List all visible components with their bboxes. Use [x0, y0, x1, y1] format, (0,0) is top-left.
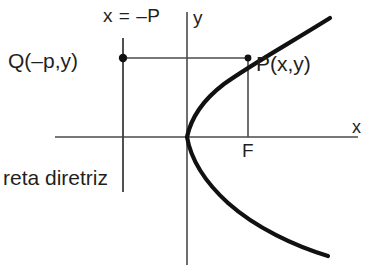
point-q-marker [119, 54, 127, 62]
directrix-equation-label: x = –P [103, 6, 160, 25]
point-q-label: Q(–p,y) [8, 50, 78, 71]
point-p-label: P(x,y) [256, 53, 311, 74]
point-p-marker [245, 55, 252, 62]
x-axis-label: x [352, 118, 361, 136]
directrix-caption-label: reta diretriz [3, 167, 108, 188]
focus-label: F [242, 141, 254, 160]
figure-canvas [0, 0, 374, 272]
parabola-figure: x = –P y x Q(–p,y) P(x,y) F reta diretri… [0, 0, 374, 272]
y-axis-label: y [193, 8, 203, 27]
